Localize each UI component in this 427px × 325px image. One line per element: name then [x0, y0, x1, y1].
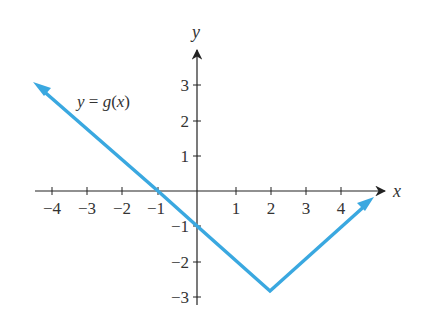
- function-label: y = g(x): [75, 92, 130, 111]
- y-tick-label: −3: [171, 288, 189, 307]
- y-tick-label: −2: [171, 253, 189, 272]
- x-tick-label: 1: [232, 199, 241, 218]
- x-tick-label: −2: [113, 199, 131, 218]
- x-tick-label: 2: [267, 199, 276, 218]
- y-axis-label: y: [190, 22, 200, 42]
- x-tick-label: −1: [147, 199, 165, 218]
- y-tick-label: 1: [181, 147, 190, 166]
- y-tick-label: 2: [181, 112, 190, 131]
- x-tick-label: 3: [302, 199, 311, 218]
- x-axis-label: x: [392, 181, 401, 201]
- graph-canvas: −4 −3 −2 −1 1 2 3 4 3 2 1 −1 −2 −3 x y y…: [0, 0, 427, 325]
- y-tick-label: 3: [181, 76, 190, 95]
- x-tick-label: −4: [43, 199, 62, 218]
- function-line: [40, 88, 368, 291]
- x-tick-label: 4: [337, 199, 346, 218]
- y-tick-label: −1: [171, 217, 189, 236]
- x-tick-label: −3: [78, 199, 96, 218]
